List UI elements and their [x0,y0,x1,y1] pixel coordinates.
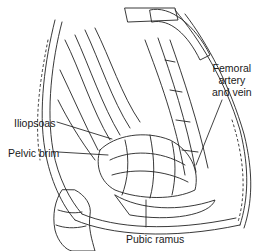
pubic-ramus-bone [115,195,215,218]
femoral-vessels [145,38,208,175]
pelvic-brim-bone [98,135,196,198]
leader-femoral [196,100,222,165]
label-iliopsoas: Iliopsoas [14,117,55,129]
leader-iliopsoas [57,122,112,139]
right-wound-edge [175,10,247,225]
retractor-hand [54,190,95,251]
label-pubic-ramus: Pubic ramus [126,233,184,245]
leader-pelvic-brim [58,152,108,155]
iliopsoas-muscle [58,28,140,160]
label-pelvic-brim: Pelvic brim [8,147,59,159]
label-femoral-artery-vein: Femoral artery and vein [212,62,252,98]
